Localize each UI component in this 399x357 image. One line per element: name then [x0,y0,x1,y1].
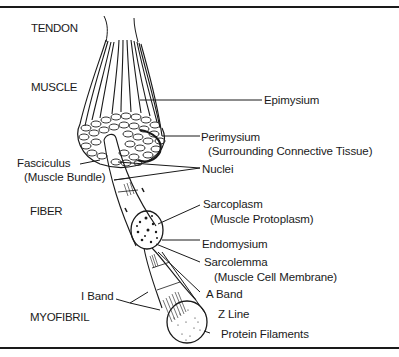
label-i-band: I Band [81,290,114,303]
muscle-anatomy-diagram: TENDON MUSCLE FIBER MYOFIBRIL Epimysium … [0,0,399,357]
label-fasciculus: Fasciculus [17,157,70,170]
label-perimysium: Perimysium [201,131,260,144]
label-epimysium: Epimysium [264,94,319,107]
label-a-band: A Band [206,288,243,301]
label-z-line: Z Line [218,308,249,321]
myofibril-drawing [144,248,207,343]
section-label-tendon: TENDON [31,22,78,34]
label-sarcolemma-note: (Muscle Cell Membrane) [214,271,337,284]
fiber-cross-section [131,211,163,249]
label-perimysium-note: (Surrounding Connective Tissue) [208,145,372,158]
label-nuclei: Nuclei [202,163,233,176]
section-label-fiber: FIBER [30,205,62,217]
label-fasciculus-note: (Muscle Bundle) [24,171,106,184]
section-label-muscle: MUSCLE [31,81,77,93]
label-sarcoplasm-note: (Muscle Protoplasm) [210,213,314,226]
label-sarcolemma: Sarcolemma [204,256,268,269]
tendon-drawing [104,16,138,42]
section-label-myofibril: MYOFIBRIL [30,311,89,323]
label-protein-filaments: Protein Filaments [221,328,309,341]
label-endomysium: Endomysium [202,238,267,251]
label-sarcoplasm: Sarcoplasm [203,198,263,211]
